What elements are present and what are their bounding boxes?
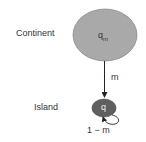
continent-q-sub: m <box>103 36 108 42</box>
diagram-canvas <box>0 0 146 142</box>
migration-label: m <box>111 72 119 82</box>
island-node-text: q <box>101 102 106 112</box>
island-label: Island <box>34 102 58 112</box>
continent-node-text: qm <box>98 30 108 42</box>
self-loop-label: 1 − m <box>87 125 110 135</box>
continent-label: Continent <box>16 28 55 38</box>
